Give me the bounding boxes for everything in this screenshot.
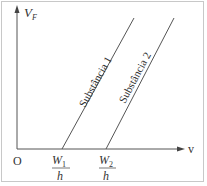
photoelectric-graph: VF v O W1 h W2 h Substância 1 Substância… <box>0 0 207 186</box>
x-intercept-1: W1 h <box>52 153 70 183</box>
line-substancia-2 <box>106 18 174 149</box>
x-axis-arrow-icon <box>177 147 185 152</box>
svg-text:W2: W2 <box>99 153 113 169</box>
origin-label: O <box>13 154 22 168</box>
y-axis-label: VF <box>24 5 37 22</box>
svg-text:h: h <box>57 169 63 183</box>
svg-text:h: h <box>103 169 109 183</box>
y-axis-arrow-icon <box>15 5 20 13</box>
x-intercept-2: W2 h <box>99 153 116 183</box>
label-substancia-1: Substância 1 <box>76 54 114 109</box>
x-axis-label: v <box>188 142 194 156</box>
label-substancia-2: Substância 2 <box>116 50 153 105</box>
svg-text:W1: W1 <box>52 153 66 169</box>
